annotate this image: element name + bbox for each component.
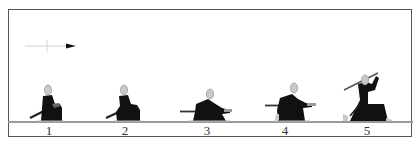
figure-step-1 <box>30 85 64 121</box>
step-label-4: 4 <box>275 124 295 138</box>
step-label-2: 2 <box>115 124 135 138</box>
arrow-right-icon <box>25 40 76 52</box>
figure-step-5 <box>343 73 392 121</box>
figure-step-4 <box>265 83 316 121</box>
figure-step-3 <box>180 89 232 121</box>
step-label-1: 1 <box>39 124 59 138</box>
figure-step-2 <box>106 85 142 121</box>
step-label-3: 3 <box>197 124 217 138</box>
step-label-5: 5 <box>357 124 377 138</box>
